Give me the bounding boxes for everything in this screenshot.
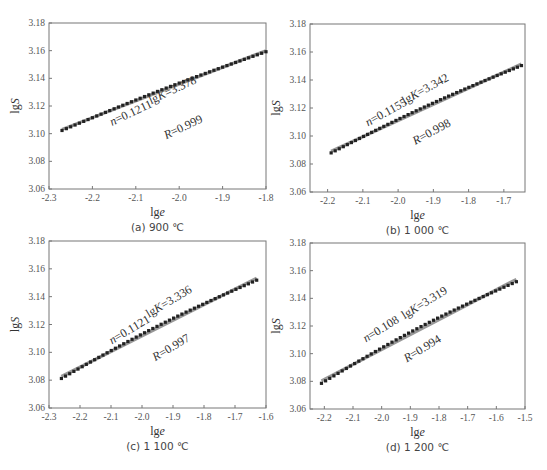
x-axis-label: lge xyxy=(410,208,425,222)
data-markers xyxy=(320,280,518,385)
y-tick-label: 3.06 xyxy=(289,404,306,414)
y-tick-label: 3.10 xyxy=(28,347,45,357)
y-tick-label: 3.08 xyxy=(28,156,45,166)
panel-caption: (d) 1 200 ℃ xyxy=(386,441,449,453)
x-tick-label: -2.2 xyxy=(72,412,87,422)
x-tick-label: -1.8 xyxy=(431,413,446,423)
x-tick-label: -2.2 xyxy=(320,196,335,206)
y-tick-label: 3.12 xyxy=(28,320,45,330)
y-tick-label: 3.14 xyxy=(28,73,45,83)
x-tick-label: -2.3 xyxy=(41,412,56,422)
y-tick-label: 3.06 xyxy=(289,187,306,197)
annotation-r: R=0.998 xyxy=(409,116,453,148)
y-tick-label: 3.08 xyxy=(289,159,306,169)
x-tick-label: -2.2 xyxy=(317,413,332,423)
x-tick-label: -2.0 xyxy=(391,196,406,206)
annotation-r: R=0.999 xyxy=(161,112,205,143)
y-tick-label: 3.18 xyxy=(28,18,45,28)
y-tick-label: 3.16 xyxy=(28,46,45,56)
x-axis-label: lge xyxy=(150,205,165,219)
x-tick-label: -1.9 xyxy=(215,193,230,203)
chart-panel-b: 3.063.083.103.123.143.163.18-2.2-2.1-2.0… xyxy=(269,19,525,236)
x-tick-label: -2.1 xyxy=(128,193,143,203)
y-tick-label: 3.12 xyxy=(289,321,306,331)
x-axis-label: lge xyxy=(150,424,165,438)
x-tick-label: -1.7 xyxy=(460,413,475,423)
y-tick-label: 3.18 xyxy=(28,236,45,246)
x-tick-label: -1.5 xyxy=(517,413,532,423)
annotation-lgk: lgK=3.342 xyxy=(399,70,451,107)
figure-canvas: 3.063.083.103.123.143.163.18-2.3-2.2-2.1… xyxy=(0,0,547,470)
y-tick-label: 3.18 xyxy=(289,238,306,248)
y-tick-label: 3.16 xyxy=(289,266,306,276)
y-tick-label: 3.12 xyxy=(28,101,45,111)
x-tick-label: -2.0 xyxy=(172,193,187,203)
chart-panel-d: 3.063.083.103.123.143.163.18-2.2-2.1-2.0… xyxy=(269,238,533,453)
x-tick-label: -1.9 xyxy=(426,196,441,206)
chart-panel-c: 3.063.083.103.123.143.163.18-2.3-2.2-2.1… xyxy=(8,236,274,452)
y-axis-label: lgS xyxy=(8,317,22,332)
y-tick-label: 3.14 xyxy=(289,293,306,303)
x-tick-label: -2.1 xyxy=(345,413,360,423)
x-tick-label: -1.9 xyxy=(165,412,180,422)
plot-frame xyxy=(49,241,266,408)
y-axis-label: lgS xyxy=(8,98,22,113)
y-tick-label: 3.12 xyxy=(289,103,306,113)
data-markers xyxy=(60,279,259,380)
x-tick-label: -2.1 xyxy=(103,412,118,422)
y-axis-label: lgS xyxy=(269,318,283,333)
x-tick-label: -1.9 xyxy=(403,413,418,423)
chart-panel-a: 3.063.083.103.123.143.163.18-2.3-2.2-2.1… xyxy=(8,18,274,233)
y-tick-label: 3.08 xyxy=(289,376,306,386)
y-tick-label: 3.10 xyxy=(289,349,306,359)
panel-caption: (b) 1 000 ℃ xyxy=(386,224,449,236)
y-tick-label: 3.14 xyxy=(289,75,306,85)
y-tick-label: 3.18 xyxy=(289,19,306,29)
x-tick-label: -2.3 xyxy=(41,193,56,203)
x-tick-label: -1.8 xyxy=(258,193,273,203)
x-tick-label: -2.1 xyxy=(355,196,370,206)
x-tick-label: -1.7 xyxy=(496,196,511,206)
plot-frame xyxy=(310,24,525,192)
plot-frame xyxy=(49,23,266,189)
y-axis-label: lgS xyxy=(269,100,283,115)
x-tick-label: -1.8 xyxy=(196,412,211,422)
plot-frame xyxy=(310,243,525,409)
x-tick-label: -2.0 xyxy=(374,413,389,423)
y-tick-label: 3.14 xyxy=(28,292,45,302)
x-axis-label: lge xyxy=(410,425,425,439)
annotation-r: R=0.997 xyxy=(149,331,192,365)
annotation-lgk: lgK=3.378 xyxy=(146,73,198,107)
x-tick-label: -1.6 xyxy=(489,413,504,423)
x-tick-label: -1.7 xyxy=(227,412,242,422)
y-tick-label: 3.08 xyxy=(28,375,45,385)
y-tick-label: 3.16 xyxy=(289,47,306,57)
y-tick-label: 3.16 xyxy=(28,264,45,274)
x-tick-label: -2.0 xyxy=(134,412,149,422)
panel-caption: (c) 1 100 ℃ xyxy=(126,440,189,452)
x-tick-label: -1.8 xyxy=(461,196,476,206)
y-tick-label: 3.10 xyxy=(28,129,45,139)
x-tick-label: -1.6 xyxy=(258,412,273,422)
x-tick-label: -2.2 xyxy=(85,193,100,203)
panel-caption: (a) 900 ℃ xyxy=(131,221,184,233)
y-tick-label: 3.10 xyxy=(289,131,306,141)
